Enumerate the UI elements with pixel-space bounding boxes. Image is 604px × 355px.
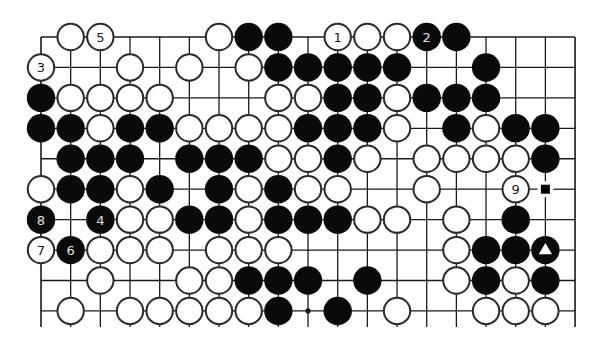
- white-stone: [503, 146, 529, 172]
- black-stone-icon: [324, 53, 352, 81]
- white-stone-icon: [176, 54, 202, 80]
- stones-layer: 512398476: [27, 23, 560, 325]
- white-stone-icon: [503, 298, 529, 324]
- black-stone-icon: [294, 266, 322, 294]
- white-stone: [443, 206, 469, 232]
- black-stone: [353, 114, 381, 142]
- black-stone-icon: [264, 205, 292, 233]
- white-stone-icon: [473, 115, 499, 141]
- black-stone-icon: [472, 236, 500, 264]
- white-stone: [235, 176, 261, 202]
- white-stone-icon: [146, 298, 172, 324]
- white-stone: [443, 146, 469, 172]
- black-stone: [116, 145, 144, 173]
- white-stone: [473, 115, 499, 141]
- white-stone: [473, 146, 499, 172]
- white-stone: [443, 267, 469, 293]
- white-stone-icon: [473, 298, 499, 324]
- white-stone-icon: [503, 146, 529, 172]
- white-stone-icon: [176, 115, 202, 141]
- black-stone: [116, 114, 144, 142]
- white-stone-icon: [384, 206, 410, 232]
- white-stone-icon: [146, 237, 172, 263]
- black-stone: [294, 53, 322, 81]
- black-stone: [56, 175, 84, 203]
- black-stone: [264, 297, 292, 325]
- black-stone-icon: [116, 145, 144, 173]
- white-stone-5: 5: [87, 24, 113, 50]
- white-stone: [235, 115, 261, 141]
- black-stone-icon: [472, 84, 500, 112]
- black-stone: [472, 84, 500, 112]
- black-stone: [531, 266, 559, 294]
- black-stone-icon: [324, 145, 352, 173]
- black-stone-icon: [56, 145, 84, 173]
- white-stone-icon: [87, 115, 113, 141]
- black-stone-2: 2: [413, 23, 441, 51]
- white-stone: [117, 85, 143, 111]
- move-number-label: 5: [96, 30, 104, 45]
- black-stone: [531, 145, 559, 173]
- black-stone-icon: [324, 297, 352, 325]
- white-stone-icon: [265, 115, 291, 141]
- black-stone-6: 6: [56, 236, 84, 264]
- black-stone: [472, 53, 500, 81]
- black-stone-icon: [205, 175, 233, 203]
- black-stone: [205, 145, 233, 173]
- black-stone-icon: [442, 23, 470, 51]
- white-stone: [295, 176, 321, 202]
- black-stone: [294, 114, 322, 142]
- black-stone-icon: [145, 114, 173, 142]
- star-point: [305, 308, 310, 313]
- black-stone: [264, 53, 292, 81]
- black-stone-icon: [116, 114, 144, 142]
- white-stone-icon: [384, 298, 410, 324]
- black-stone: [294, 266, 322, 294]
- white-stone: [117, 54, 143, 80]
- black-stone: [502, 205, 530, 233]
- go-board-diagram: 512398476: [0, 0, 604, 355]
- white-stone-icon: [414, 176, 440, 202]
- white-stone-icon: [235, 115, 261, 141]
- black-stone-icon: [442, 84, 470, 112]
- black-stone-icon: [205, 205, 233, 233]
- white-stone: [265, 115, 291, 141]
- white-stone-icon: [146, 206, 172, 232]
- black-stone: [324, 145, 352, 173]
- black-stone: [27, 84, 55, 112]
- black-stone-icon: [413, 84, 441, 112]
- white-stone: [57, 24, 83, 50]
- white-stone-icon: [473, 146, 499, 172]
- black-stone: [175, 145, 203, 173]
- move-number-label: 1: [334, 30, 342, 45]
- white-stone: [295, 85, 321, 111]
- black-stone: [56, 145, 84, 173]
- black-stone: [324, 84, 352, 112]
- white-stone-icon: [235, 237, 261, 263]
- black-stone-icon: [353, 53, 381, 81]
- black-stone: [86, 145, 114, 173]
- white-stone: [503, 267, 529, 293]
- move-number-label: 8: [37, 213, 45, 228]
- black-stone: [264, 175, 292, 203]
- white-stone-icon: [384, 115, 410, 141]
- white-stone: [146, 237, 172, 263]
- black-stone: [531, 236, 559, 264]
- black-stone: [145, 114, 173, 142]
- white-stone-7: 7: [28, 237, 54, 263]
- black-stone-icon: [205, 145, 233, 173]
- white-stone: [206, 298, 232, 324]
- white-stone: [146, 206, 172, 232]
- black-stone-icon: [264, 53, 292, 81]
- white-stone-icon: [87, 85, 113, 111]
- black-stone: [502, 114, 530, 142]
- white-stone-icon: [206, 115, 232, 141]
- white-stone: [235, 298, 261, 324]
- black-stone-icon: [56, 175, 84, 203]
- white-stone-icon: [176, 298, 202, 324]
- white-stone: [265, 85, 291, 111]
- white-stone-icon: [176, 267, 202, 293]
- move-number-label: 6: [67, 243, 75, 258]
- white-stone: [384, 298, 410, 324]
- white-stone-icon: [206, 24, 232, 50]
